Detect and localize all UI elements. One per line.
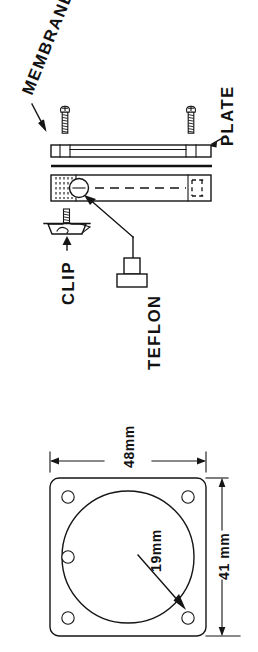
bolt-hole — [182, 491, 194, 503]
plate-bar — [51, 145, 211, 157]
bolt-hole — [62, 551, 74, 563]
body-bar — [51, 175, 211, 201]
plate-label: PLATE — [218, 85, 236, 146]
bolt-hole — [62, 491, 74, 503]
bolt-hole — [62, 612, 74, 624]
teflon-label: TEFLON — [145, 294, 163, 370]
plate-label-group: PLATE — [218, 85, 236, 146]
dimension-height-label: 41 mm — [216, 533, 232, 580]
engineering-drawing-figure: MEMBRANE PLATE — [0, 0, 258, 652]
dimension-radius-label: 19mm — [148, 529, 164, 572]
clip-label: CLIP — [59, 261, 77, 305]
screw-icon — [61, 106, 70, 133]
drawing-canvas: MEMBRANE PLATE — [0, 0, 258, 652]
dimension-width-label: 48mm — [121, 425, 137, 468]
bolt-hole — [182, 612, 194, 624]
flange-bore-circle — [62, 491, 194, 623]
screw-icon — [187, 106, 196, 133]
